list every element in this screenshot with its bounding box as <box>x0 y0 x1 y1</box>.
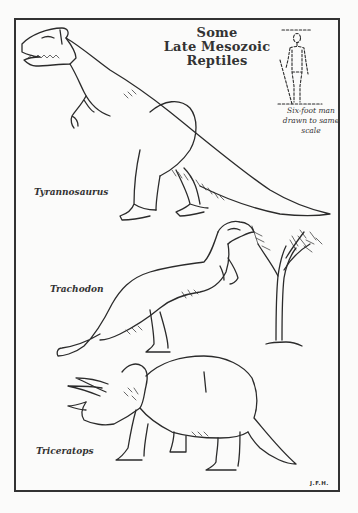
triceratops-label: Triceratops <box>36 446 94 456</box>
tree-drawing <box>252 226 322 346</box>
illustration-title: Some Late Mesozoic Reptiles <box>152 26 282 68</box>
six-foot-man-figure <box>278 30 322 104</box>
scale-note-line: scale <box>280 126 342 136</box>
tyrannosaurus-label: Tyrannosaurus <box>34 187 108 197</box>
artist-signature: J.F.H. <box>310 480 329 486</box>
title-line: Reptiles <box>152 54 282 68</box>
scale-note-line: Six-foot man <box>280 106 342 116</box>
dinosaur-illustration <box>0 0 358 513</box>
title-line: Late Mesozoic <box>152 40 282 54</box>
trachodon-label: Trachodon <box>50 284 103 294</box>
scale-note-line: drawn to same <box>280 116 342 126</box>
title-line: Some <box>152 26 282 40</box>
scale-note: Six-foot man drawn to same scale <box>280 106 342 136</box>
triceratops-drawing <box>68 356 296 470</box>
